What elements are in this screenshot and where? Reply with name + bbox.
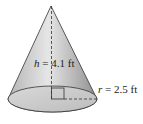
height-label: h = 4.1 ft bbox=[34, 57, 74, 69]
height-value: 4.1 ft bbox=[51, 57, 74, 69]
radius-value: 2.5 ft bbox=[114, 83, 137, 95]
radius-eq: = bbox=[102, 83, 114, 95]
height-eq: = bbox=[40, 57, 52, 69]
radius-label: r = 2.5 ft bbox=[98, 83, 137, 95]
cone-diagram: h = 4.1 ft r = 2.5 ft bbox=[0, 0, 143, 124]
